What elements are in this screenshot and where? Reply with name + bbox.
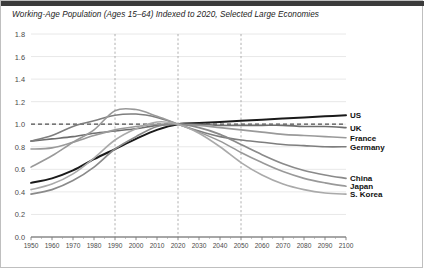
ytick-label-1.8: 1.8: [5, 30, 25, 39]
xtick-label-2040: 2040: [213, 242, 228, 249]
xtick-label-2080: 2080: [297, 242, 312, 249]
ytick-label-1.6: 1.6: [5, 52, 25, 61]
xtick-label-2100: 2100: [339, 242, 354, 249]
ytick-label-1.0: 1.0: [5, 120, 25, 129]
legend-label-uk: UK: [350, 123, 362, 132]
ytick-label-0.8: 0.8: [5, 142, 25, 151]
legend-label-us: US: [350, 111, 361, 120]
xtick-label-2000: 2000: [129, 242, 144, 249]
xtick-label-1980: 1980: [87, 242, 102, 249]
ytick-label-0.6: 0.6: [5, 165, 25, 174]
legend-label-s-korea: S. Korea: [350, 190, 382, 199]
xtick-label-2090: 2090: [318, 242, 333, 249]
plot-area: 0.00.20.40.60.81.01.21.41.61.81950196019…: [1, 1, 424, 268]
xtick-label-2030: 2030: [192, 242, 207, 249]
ytick-label-1.2: 1.2: [5, 97, 25, 106]
xtick-label-2060: 2060: [255, 242, 270, 249]
xtick-label-1960: 1960: [45, 242, 60, 249]
xtick-label-1950: 1950: [24, 242, 39, 249]
xtick-label-2070: 2070: [276, 242, 291, 249]
xtick-label-1990: 1990: [108, 242, 123, 249]
ytick-label-1.4: 1.4: [5, 75, 25, 84]
ytick-label-0.0: 0.0: [5, 233, 25, 242]
series-line-germany: [31, 114, 346, 147]
series-line-japan: [31, 109, 346, 187]
xtick-label-1970: 1970: [66, 242, 81, 249]
legend-label-france: France: [350, 133, 376, 142]
xtick-label-2010: 2010: [150, 242, 165, 249]
ytick-label-0.4: 0.4: [5, 187, 25, 196]
xtick-label-2050: 2050: [234, 242, 249, 249]
series-line-s-korea: [31, 122, 346, 194]
legend-label-germany: Germany: [350, 142, 385, 151]
xtick-label-2020: 2020: [171, 242, 186, 249]
ytick-label-0.2: 0.2: [5, 210, 25, 219]
